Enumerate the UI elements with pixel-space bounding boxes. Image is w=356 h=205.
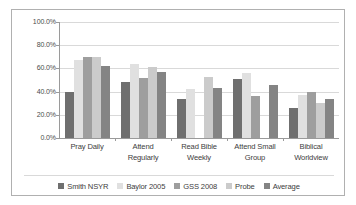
x-axis-category-label-line: Weekly: [171, 152, 227, 163]
legend-item[interactable]: Probe: [226, 182, 255, 191]
y-axis-tick-label: 20.0%: [16, 111, 56, 119]
bar: [307, 92, 316, 138]
bar: [65, 92, 74, 138]
bar: [325, 99, 334, 138]
legend-swatch-icon: [117, 183, 123, 189]
y-axis-tick-label: 40.0%: [16, 88, 56, 96]
bar: [130, 64, 139, 138]
legend-swatch-icon: [58, 183, 64, 189]
bar: [74, 60, 83, 138]
bar: [186, 89, 195, 138]
legend-separator: [24, 175, 334, 176]
x-axis-category-label: BiblicalWorldview: [283, 141, 339, 163]
legend-item[interactable]: GSS 2008: [174, 182, 217, 191]
legend-swatch-icon: [174, 183, 180, 189]
bar-group: [59, 22, 115, 138]
y-axis-tick-mark: [56, 138, 59, 139]
x-axis-category-label-line: Regularly: [115, 152, 171, 163]
x-axis-category-label-line: Read Bible: [171, 141, 227, 152]
x-axis-tick-mark: [115, 138, 116, 141]
x-axis-tick-mark: [283, 138, 284, 141]
y-axis-tick-label: 0.0%: [16, 134, 56, 142]
y-axis-tick-mark: [56, 22, 59, 23]
x-axis-category-label: Attend SmallGroup: [227, 141, 283, 163]
legend-item[interactable]: Baylor 2005: [117, 182, 165, 191]
bar: [157, 72, 166, 138]
y-axis-tick-label: 80.0%: [16, 41, 56, 49]
bar: [269, 85, 278, 138]
x-axis-category-label-line: Attend Small: [227, 141, 283, 152]
bar: [233, 79, 242, 138]
bar: [289, 108, 298, 138]
bar: [139, 78, 148, 138]
x-axis-line: [59, 138, 339, 139]
x-axis-tick-mark: [171, 138, 172, 141]
legend-swatch-icon: [264, 183, 270, 189]
y-axis-tick-mark: [56, 115, 59, 116]
plot-area: [59, 22, 339, 138]
x-axis-category-labels: Pray DailyAttendRegularlyRead BibleWeekl…: [59, 141, 339, 173]
x-axis-category-label-line: Worldview: [283, 152, 339, 163]
legend-label: Probe: [235, 182, 255, 191]
y-axis-labels: 100.0%80.0%60.0%40.0%20.0%0.0%: [12, 22, 56, 139]
bar: [177, 99, 186, 138]
bar: [101, 66, 110, 138]
legend-item[interactable]: Smith NSYR: [58, 182, 108, 191]
x-axis-category-label: AttendRegularly: [115, 141, 171, 163]
chart-legend: Smith NSYRBaylor 2005GSS 2008ProbeAverag…: [12, 178, 346, 194]
y-axis-tick-mark: [56, 92, 59, 93]
x-axis-category-label-line: Group: [227, 152, 283, 163]
legend-label: Average: [273, 182, 300, 191]
chart-container: 100.0%80.0%60.0%40.0%20.0%0.0% Pray Dail…: [11, 9, 345, 196]
bar: [213, 88, 222, 138]
legend-label: Baylor 2005: [126, 182, 165, 191]
bar-group: [115, 22, 171, 138]
bar: [204, 77, 213, 138]
bar: [148, 67, 157, 138]
x-axis-category-label-line: Attend: [115, 141, 171, 152]
legend-swatch-icon: [226, 183, 232, 189]
legend-label: GSS 2008: [183, 182, 217, 191]
y-axis-tick-label: 60.0%: [16, 64, 56, 72]
bar: [83, 57, 92, 138]
bar-group: [171, 22, 227, 138]
y-axis-tick-mark: [56, 68, 59, 69]
y-axis-tick-label: 100.0%: [16, 18, 56, 26]
x-axis-category-label: Read BibleWeekly: [171, 141, 227, 163]
x-axis-category-label-line: Pray Daily: [59, 141, 115, 152]
legend-label: Smith NSYR: [67, 182, 108, 191]
y-axis-line: [59, 22, 60, 139]
bar: [242, 73, 251, 138]
bar-group: [227, 22, 283, 138]
legend-item[interactable]: Average: [264, 182, 300, 191]
x-axis-category-label-line: Biblical: [283, 141, 339, 152]
bar: [298, 95, 307, 138]
bar: [316, 103, 325, 138]
y-axis-tick-mark: [56, 45, 59, 46]
bar-group: [283, 22, 339, 138]
bar: [251, 96, 260, 138]
bar: [121, 82, 130, 138]
x-axis-tick-mark: [227, 138, 228, 141]
bar: [92, 57, 101, 138]
x-axis-category-label: Pray Daily: [59, 141, 115, 152]
